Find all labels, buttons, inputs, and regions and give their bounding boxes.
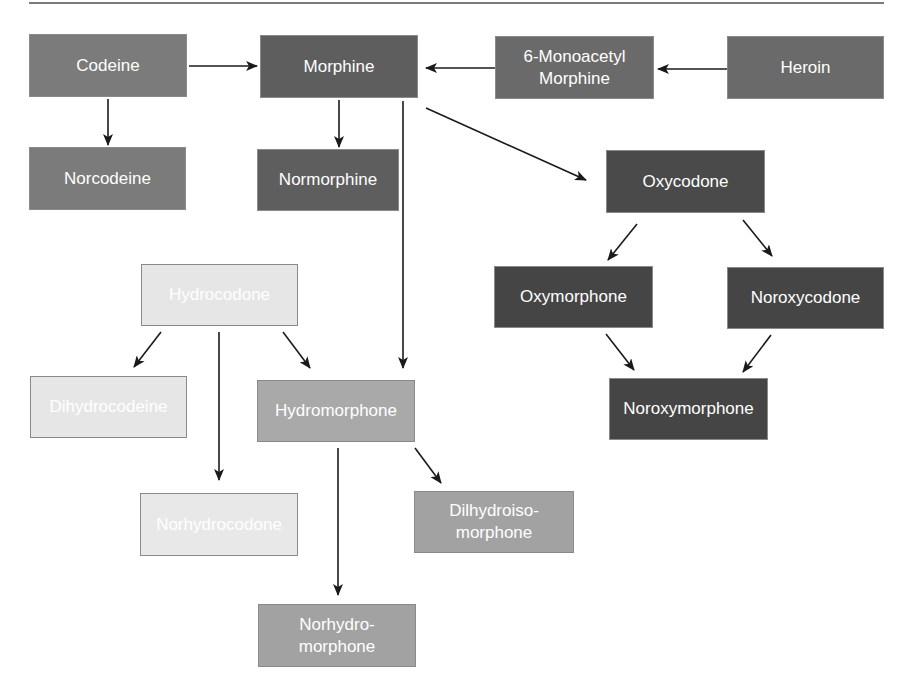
arrow-hydrocodone-to-hydromorphone xyxy=(283,332,310,368)
arrow-hydromorphone-to-dilhydroisomorphone xyxy=(415,448,441,483)
node-label: Norcodeine xyxy=(64,168,151,190)
node-morphine: Morphine xyxy=(260,35,418,98)
arrow-noroxycodone-to-noroxymorphone xyxy=(743,335,771,372)
arrow-oxymorphone-to-noroxymorphone xyxy=(606,334,634,370)
node-norhydromorphone: Norhydro- morphone xyxy=(258,604,416,667)
node-label: Dilhydroiso- morphone xyxy=(449,500,539,544)
node-label: 6-Monoacetyl Morphine xyxy=(523,46,625,90)
node-oxycodone: Oxycodone xyxy=(606,150,765,213)
node-noroxycodone: Noroxycodone xyxy=(727,267,884,329)
node-codeine: Codeine xyxy=(29,34,187,97)
node-label: Noroxycodone xyxy=(751,287,861,309)
arrow-oxycodone-to-oxymorphone xyxy=(608,224,637,260)
node-label: Noroxymorphone xyxy=(623,398,753,420)
node-label: Morphine xyxy=(304,56,375,78)
node-label: Oxycodone xyxy=(643,171,729,193)
node-normorphine: Normorphine xyxy=(257,149,399,211)
node-label: Norhydro- morphone xyxy=(299,614,376,658)
node-label: Codeine xyxy=(76,55,139,77)
node-hydrocodone: Hydrocodone xyxy=(141,264,298,326)
arrow-hydrocodone-to-dihydrocodeine xyxy=(134,332,161,367)
node-label: Oxymorphone xyxy=(520,286,627,308)
node-label: Hydrocodone xyxy=(169,284,270,306)
node-label: Dihydrocodeine xyxy=(49,396,167,418)
node-label: Normorphine xyxy=(279,169,377,191)
node-6-monoacetyl-morphine: 6-Monoacetyl Morphine xyxy=(495,36,654,99)
node-norhydrocodone: Norhydrocodone xyxy=(140,493,298,556)
node-hydromorphone: Hydromorphone xyxy=(257,380,415,442)
arrow-oxycodone-to-noroxycodone xyxy=(743,220,772,256)
node-norcodeine: Norcodeine xyxy=(29,147,186,210)
node-oxymorphone: Oxymorphone xyxy=(494,266,653,328)
node-heroin: Heroin xyxy=(727,36,884,99)
pathway-arrows xyxy=(0,0,910,698)
node-label: Norhydrocodone xyxy=(156,514,282,536)
arrow-morphine-to-oxycodone xyxy=(426,108,586,180)
node-dihydrocodeine: Dihydrocodeine xyxy=(30,376,187,438)
node-dilhydroisomorphone: Dilhydroiso- morphone xyxy=(414,491,574,553)
node-label: Hydromorphone xyxy=(275,400,397,422)
node-noroxymorphone: Noroxymorphone xyxy=(609,378,768,440)
node-label: Heroin xyxy=(780,57,830,79)
